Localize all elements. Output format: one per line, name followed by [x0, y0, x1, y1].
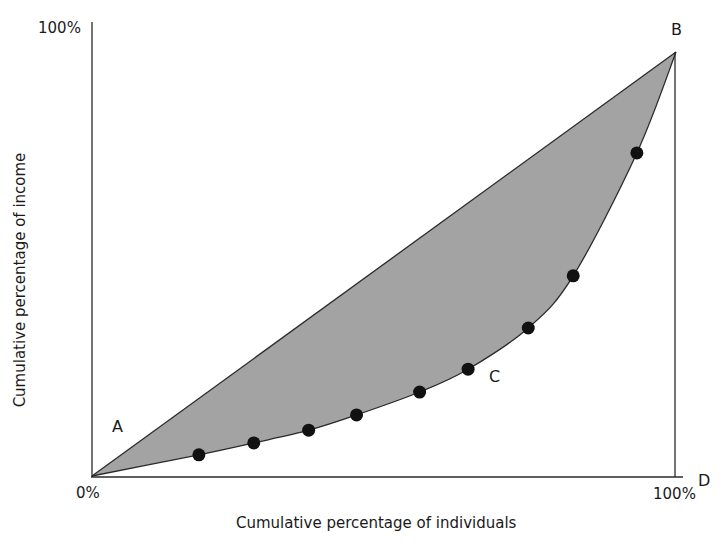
y-axis-title: Cumulative percentage of income — [11, 153, 29, 408]
point-c-label: C — [489, 369, 500, 385]
data-point-marker — [522, 322, 535, 335]
y-axis-top-tick: 100% — [38, 21, 81, 36]
data-point-marker — [413, 386, 426, 399]
point-b-label: B — [671, 22, 682, 38]
line-of-equality — [92, 52, 676, 476]
data-point-marker — [247, 436, 260, 449]
data-point-marker — [567, 269, 580, 282]
lorenz-chart — [0, 0, 728, 556]
origin-tick: 0% — [76, 486, 100, 501]
data-point-marker — [192, 448, 205, 461]
x-axis-right-tick: 100% — [653, 487, 696, 502]
data-point-marker — [630, 146, 643, 159]
point-a-label: A — [112, 419, 123, 435]
data-point-marker — [350, 408, 363, 421]
data-point-marker — [302, 424, 315, 437]
x-axis-title: Cumulative percentage of individuals — [236, 516, 516, 531]
point-d-label: D — [698, 473, 710, 489]
data-point-marker — [462, 363, 475, 376]
